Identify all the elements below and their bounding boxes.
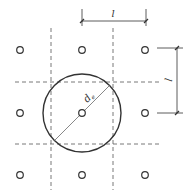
pile [17,110,24,117]
pile [17,172,24,179]
pile [142,172,149,179]
pile [79,47,86,54]
pile [142,110,149,117]
spacing-label-right: l [163,77,174,82]
diameter-label: de [81,89,97,105]
spacing-label-top: l [111,8,114,19]
pile [17,47,24,54]
cell-boundaries [15,28,160,190]
pile [79,172,86,179]
piles [17,47,149,179]
diagram-canvas: de l l [0,0,191,195]
pile [142,47,149,54]
pile-center [79,110,86,117]
